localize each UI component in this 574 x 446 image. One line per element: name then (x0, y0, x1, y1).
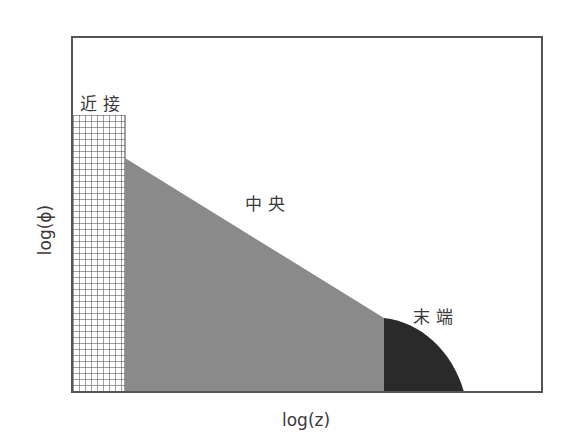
middle-label: 中央 (245, 190, 291, 215)
end-label: 末端 (413, 303, 459, 328)
diagram-canvas (0, 0, 574, 446)
end-region (384, 318, 464, 392)
x-axis-label: log(z) (282, 410, 330, 430)
near-region (73, 115, 125, 392)
y-axis-label: log(ϕ) (35, 205, 55, 255)
near-label: 近接 (80, 90, 126, 115)
